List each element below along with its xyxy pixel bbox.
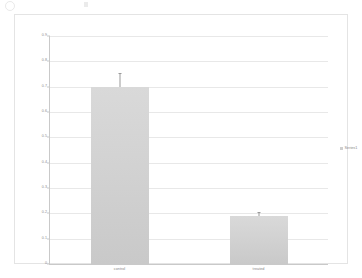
error-bar-cap-treated <box>257 212 260 213</box>
y-axis-tick-label: 0.6 <box>42 110 47 114</box>
plot-area: 0.90.80.70.60.50.40.30.20.10controltreat… <box>49 36 328 265</box>
legend-label-series1: Series1 <box>345 147 358 151</box>
legend-marker-series1 <box>340 147 343 150</box>
y-axis-tick-label: 0.8 <box>42 60 47 64</box>
y-axis-tick-mark <box>47 137 50 138</box>
y-axis-tick-label: 0.1 <box>42 237 47 241</box>
y-axis-tick-label: 0.5 <box>42 136 47 140</box>
bar-treated[interactable] <box>230 216 288 264</box>
page-artifact-top <box>84 2 88 7</box>
y-axis-tick-mark <box>47 162 50 163</box>
y-axis-tick-mark <box>47 61 50 62</box>
error-bar-cap-control <box>118 73 121 74</box>
y-axis-tick-label: 0.9 <box>42 34 47 38</box>
x-axis-label-control: control <box>114 268 125 272</box>
x-axis-label-treated: treated <box>253 268 265 272</box>
page-artifact-top-left <box>5 1 15 11</box>
chart-container: 0.90.80.70.60.50.40.30.20.10controltreat… <box>14 14 348 264</box>
error-bar-control <box>119 73 120 87</box>
y-axis-tick-label: 0 <box>45 262 47 266</box>
gridline <box>50 264 328 265</box>
y-axis-tick-mark <box>47 86 50 87</box>
gridline <box>50 61 328 62</box>
y-axis-tick-mark <box>47 238 50 239</box>
y-axis-tick-label: 0.7 <box>42 85 47 89</box>
y-axis-tick-mark <box>47 213 50 214</box>
gridline <box>50 36 328 37</box>
y-axis-tick-label: 0.3 <box>42 186 47 190</box>
y-axis-tick-mark <box>47 264 50 265</box>
y-axis-tick-mark <box>47 112 50 113</box>
bar-control[interactable] <box>91 87 149 264</box>
y-axis-tick-mark <box>47 36 50 37</box>
y-axis-tick-mark <box>47 188 50 189</box>
chart-legend: Series1 <box>340 147 357 151</box>
y-axis-tick-label: 0.4 <box>42 161 47 165</box>
y-axis-tick-label: 0.2 <box>42 212 47 216</box>
